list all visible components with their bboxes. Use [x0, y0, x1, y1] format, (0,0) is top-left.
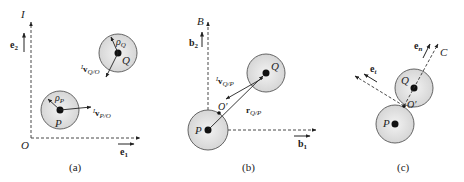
P-label: P — [54, 117, 62, 129]
panel-a: I e2 e1 O ρQ Q IvQ/O ρP P IvP/O (a) — [10, 8, 140, 174]
center-P — [392, 121, 399, 128]
en-arrow — [423, 44, 430, 58]
caption-b: (b) — [242, 161, 255, 174]
position-vector-label: rQ/P — [246, 105, 262, 117]
panel-c: P Q O′ C et en (c) — [355, 40, 448, 174]
b2-label: b2 — [189, 37, 199, 50]
relative-velocity-label: IvQ/P — [215, 76, 235, 88]
frame-label-B: B — [197, 15, 204, 27]
caption-c: (c) — [397, 161, 410, 174]
caption-a: (a) — [69, 161, 82, 174]
velocity-Q-label: IvQ/O — [80, 64, 100, 76]
panel-b: B b2 b1 P Q rQ/P IvQ/P O′ (b) — [188, 15, 316, 174]
origin-label: O — [21, 139, 29, 151]
velocity-P-label: IvP/O — [92, 108, 111, 120]
frame-label-C: C — [440, 46, 448, 58]
diagram-canvas: I e2 e1 O ρQ Q IvQ/O ρP P IvP/O (a) B b2… — [0, 0, 464, 182]
Q-label: Q — [122, 54, 130, 66]
O-prime-label: O′ — [218, 101, 228, 112]
position-vector-arrow — [208, 76, 263, 130]
figure: I e2 e1 O ρQ Q IvQ/O ρP P IvP/O (a) B b2… — [0, 0, 464, 182]
b1-label: b1 — [298, 138, 308, 151]
O-prime-label: O′ — [407, 99, 417, 110]
P-label: P — [382, 117, 390, 129]
et-label: et — [370, 63, 377, 76]
center-Q — [263, 70, 270, 77]
e2-label: e2 — [10, 39, 18, 52]
e1-label: e1 — [120, 146, 128, 159]
P-label: P — [194, 124, 202, 136]
Q-label: Q — [271, 60, 279, 72]
frame-label-I: I — [20, 8, 26, 20]
Q-label: Q — [401, 74, 409, 86]
en-label: en — [414, 40, 422, 53]
